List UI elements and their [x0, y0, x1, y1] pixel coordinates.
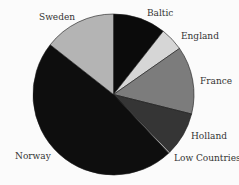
slice-label-low-countries: Low Countries: [174, 153, 239, 163]
slice-label-france: France: [200, 76, 232, 86]
slice-label-norway: Norway: [15, 151, 52, 161]
slice-label-holland: Holland: [191, 131, 227, 141]
slice-label-baltic: Baltic: [147, 8, 173, 18]
slice-label-england: England: [181, 31, 219, 41]
slice-label-sweden: Sweden: [39, 12, 75, 22]
pie-chart: Baltic England France Holland Low Countr…: [0, 0, 239, 185]
